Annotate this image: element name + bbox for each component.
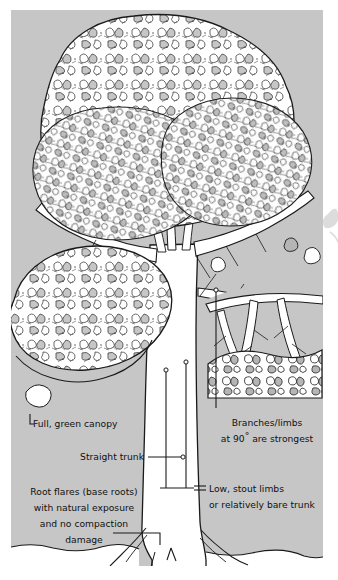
label-root-flares-line2: with natural exposure — [34, 502, 135, 513]
label-full-green-canopy: Full, green canopy — [33, 418, 118, 429]
label-branches-line2: at 90° are strongest — [221, 430, 314, 444]
branches-angle-post: are strongest — [249, 433, 313, 444]
leader-dot-limb-a — [184, 360, 188, 364]
canopy-right-lobe — [161, 98, 311, 226]
label-root-flares-line4: damage — [65, 534, 103, 545]
leader-dot-branch — [214, 288, 218, 292]
tree-diagram-figure: Full, green canopy Straight trunk Root f… — [0, 0, 338, 580]
label-limbs-line1: Low, stout limbs — [209, 483, 284, 494]
label-root-flares-line3: and no compaction — [40, 518, 128, 529]
diagram-canvas: Full, green canopy Straight trunk Root f… — [0, 0, 338, 580]
leader-dot-limb-b — [164, 368, 168, 372]
label-limbs-line2: or relatively bare trunk — [209, 499, 316, 510]
branches-angle-pre: at 90 — [221, 433, 245, 444]
canopy-leaf-sprig — [26, 385, 51, 407]
label-straight-trunk: Straight trunk — [80, 451, 145, 462]
right-lower-limb-group — [206, 282, 323, 400]
right-limb-foliage — [208, 350, 322, 398]
label-root-flares-line1: Root flares (base roots) — [30, 486, 137, 497]
leader-dot-trunk — [181, 455, 185, 459]
label-branches-line1: Branches/limbs — [232, 417, 303, 428]
